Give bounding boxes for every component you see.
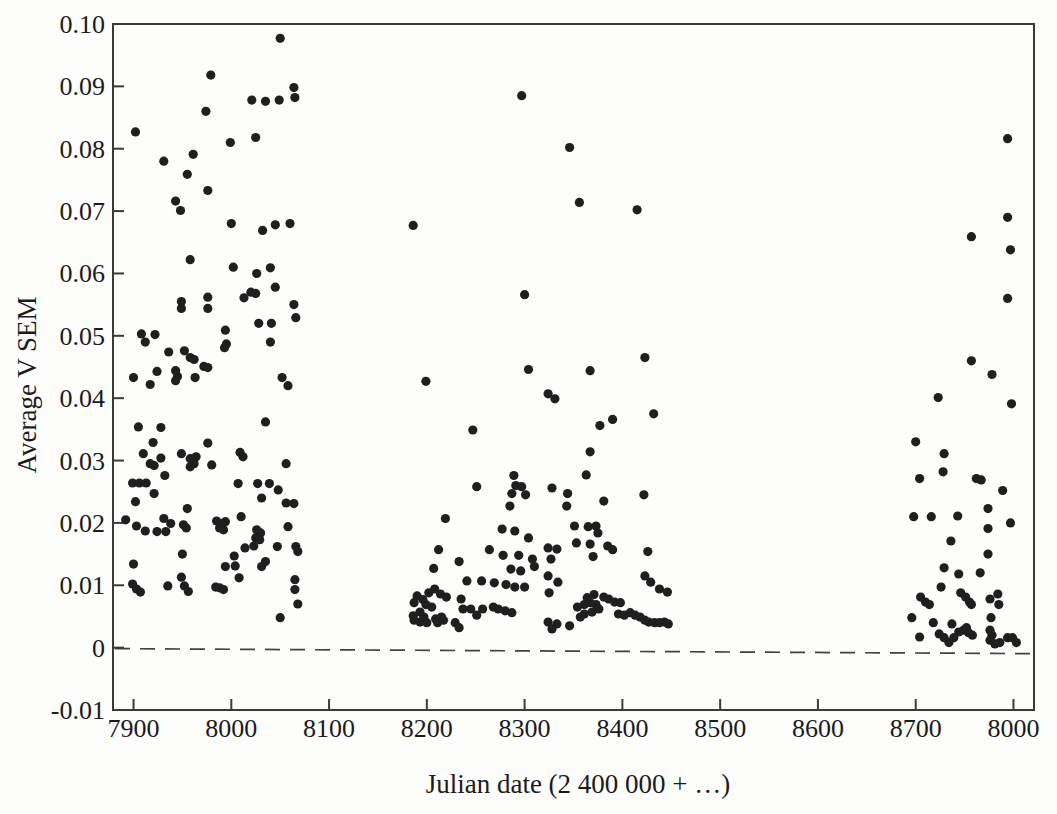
data-point	[517, 91, 526, 100]
data-point	[553, 578, 562, 587]
data-point	[570, 521, 579, 530]
x-tick-label: 8000	[987, 714, 1039, 743]
data-point	[190, 355, 199, 364]
data-point	[646, 578, 655, 587]
data-point	[589, 552, 598, 561]
data-point	[608, 415, 617, 424]
data-point	[156, 423, 165, 432]
data-point	[616, 598, 625, 607]
data-point	[164, 347, 173, 356]
data-point	[290, 575, 299, 584]
data-point	[1012, 638, 1021, 647]
data-point	[640, 353, 649, 362]
data-point	[466, 604, 475, 613]
data-point	[421, 377, 430, 386]
data-point	[937, 583, 946, 592]
data-point	[530, 562, 539, 571]
data-point	[177, 304, 186, 313]
y-tick-label: 0.04	[60, 384, 106, 413]
data-point	[462, 576, 471, 585]
data-point	[261, 417, 270, 426]
data-point	[439, 616, 448, 625]
data-point	[1007, 399, 1016, 408]
data-point	[275, 96, 284, 105]
zero-dashed-line	[115, 649, 1032, 654]
data-point	[565, 143, 574, 152]
data-point	[977, 475, 986, 484]
data-point	[524, 365, 533, 374]
data-point	[261, 97, 270, 106]
data-point	[206, 71, 215, 80]
data-point	[183, 504, 192, 513]
data-point	[230, 551, 239, 560]
data-point	[239, 293, 248, 302]
data-point	[282, 459, 291, 468]
x-tick-label: 8200	[401, 714, 453, 743]
data-point	[521, 490, 530, 499]
data-point	[507, 489, 516, 498]
data-point	[203, 304, 212, 313]
data-point	[146, 380, 155, 389]
data-point	[576, 613, 585, 622]
data-point	[575, 198, 584, 207]
data-point	[278, 373, 287, 382]
data-point	[249, 541, 258, 550]
data-point	[514, 551, 523, 560]
data-point	[940, 563, 949, 572]
x-tick-label: 8000	[205, 714, 257, 743]
data-point	[915, 632, 924, 641]
data-point	[588, 608, 597, 617]
data-point	[546, 555, 555, 564]
data-point	[510, 526, 519, 535]
data-point	[927, 512, 936, 521]
data-point	[976, 568, 985, 577]
data-point	[186, 255, 195, 264]
data-point	[987, 370, 996, 379]
data-point	[274, 485, 283, 494]
data-point	[442, 593, 451, 602]
data-point	[1006, 518, 1015, 527]
data-point	[427, 603, 436, 612]
data-point	[150, 330, 159, 339]
data-point	[290, 585, 299, 594]
data-point	[983, 550, 992, 559]
data-point	[544, 543, 553, 552]
data-point	[505, 502, 514, 511]
data-point	[177, 449, 186, 458]
data-point	[237, 512, 246, 521]
data-point	[150, 489, 159, 498]
data-point	[457, 594, 466, 603]
data-point	[289, 83, 298, 92]
data-point	[152, 367, 161, 376]
x-axis-title: Julian date (2 400 000 + …)	[426, 769, 731, 799]
data-point	[477, 576, 486, 585]
y-tick-label: 0.06	[60, 259, 106, 288]
data-point	[203, 363, 212, 372]
data-point	[499, 551, 508, 560]
data-point	[934, 393, 943, 402]
data-point	[472, 482, 481, 491]
data-point	[520, 290, 529, 299]
data-point	[967, 232, 976, 241]
data-point	[968, 631, 977, 640]
data-point	[141, 526, 150, 535]
data-point	[207, 460, 216, 469]
y-tick-label: 0.05	[60, 322, 106, 351]
data-point	[129, 560, 138, 569]
data-point	[271, 220, 280, 229]
data-point	[293, 599, 302, 608]
data-point	[227, 219, 236, 228]
data-point	[983, 524, 992, 533]
data-point	[221, 562, 230, 571]
data-point	[940, 449, 949, 458]
data-point	[289, 499, 298, 508]
data-point	[134, 422, 143, 431]
data-point	[261, 557, 270, 566]
data-point	[265, 479, 274, 488]
data-point	[429, 564, 438, 573]
data-point	[171, 376, 180, 385]
data-point	[189, 150, 198, 159]
data-point	[939, 467, 948, 476]
data-point	[501, 580, 510, 589]
data-point	[220, 343, 229, 352]
